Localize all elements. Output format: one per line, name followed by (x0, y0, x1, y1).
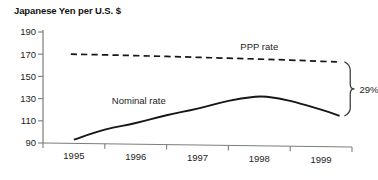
annotation-label-percent: 29% (359, 84, 378, 95)
x-axis-line (43, 143, 352, 147)
annotations-group: 29% (345, 62, 378, 116)
y-axis-tick-labels: 90110130150170190 (20, 26, 36, 148)
series-label-ppp-rate: PPP rate (240, 41, 278, 52)
y-tick-label: 150 (20, 71, 36, 82)
y-tick-label: 190 (20, 26, 36, 37)
x-tick-label: 1995 (63, 150, 84, 161)
x-tick-label: 1997 (187, 152, 208, 163)
y-tick-label: 170 (20, 49, 36, 60)
x-axis-tick-labels: 19951996199719981999 (63, 150, 331, 164)
series-line-ppp-rate (71, 54, 340, 62)
x-tick-label: 1996 (125, 151, 146, 162)
x-tick-label: 1999 (311, 154, 332, 165)
gap-bracket (345, 62, 354, 116)
series-label-nominal-rate: Nominal rate (112, 95, 166, 106)
y-axis-ticks (38, 32, 43, 143)
y-tick-label: 90 (25, 137, 36, 148)
chart-figure: Japanese Yen per U.S. $ 9011013015017019… (0, 0, 378, 180)
x-axis: 19951996199719981999 (43, 143, 352, 165)
x-tick-label: 1998 (249, 153, 270, 164)
x-axis-ticks (43, 143, 352, 152)
y-tick-label: 130 (20, 93, 36, 104)
line-chart-plot: 90110130150170190 19951996199719981999 P… (0, 0, 378, 180)
y-tick-label: 110 (21, 115, 36, 126)
y-axis: 90110130150170190 (20, 26, 43, 148)
